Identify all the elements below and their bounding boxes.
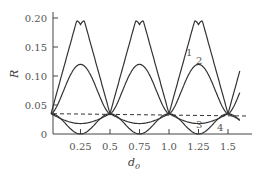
curve-label-4: 4 xyxy=(217,122,223,133)
svg-text:0.10: 0.10 xyxy=(25,71,47,82)
svg-text:0.20: 0.20 xyxy=(25,13,47,24)
svg-text:0.25: 0.25 xyxy=(69,141,91,152)
svg-text:1.5: 1.5 xyxy=(220,141,236,152)
svg-text:1.25: 1.25 xyxy=(187,141,209,152)
svg-text:0: 0 xyxy=(41,129,47,140)
curve-label-2: 2 xyxy=(196,55,202,66)
curve-label-3: 3 xyxy=(196,119,202,130)
svg-text:1.0: 1.0 xyxy=(161,141,177,152)
x-axis-label: d0 xyxy=(128,156,140,171)
curves xyxy=(51,21,248,134)
chart: 00.050.100.150.20 0.250.50.751.01.251.5 … xyxy=(0,0,266,182)
svg-text:0.15: 0.15 xyxy=(25,42,47,53)
svg-text:0.05: 0.05 xyxy=(25,100,47,111)
y-axis-label: R xyxy=(8,70,21,79)
x-ticks: 0.250.50.751.01.251.5 xyxy=(69,129,236,152)
svg-text:0.75: 0.75 xyxy=(128,141,150,152)
curve-label-1: 1 xyxy=(186,47,192,58)
svg-text:0.5: 0.5 xyxy=(102,141,118,152)
